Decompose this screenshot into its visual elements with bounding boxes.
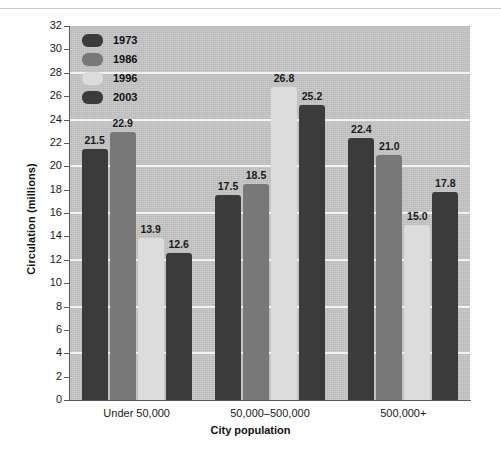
bar-value-label: 12.6: [156, 239, 202, 250]
y-axis-tick-label: 2: [16, 371, 62, 382]
legend-item-label: 1986: [113, 54, 137, 65]
y-axis-tick-label: 16: [16, 207, 62, 218]
y-axis-tick-label: 24: [16, 114, 62, 125]
y-axis-tick: [64, 353, 69, 354]
y-axis-tick: [64, 213, 69, 214]
y-axis-tick: [64, 236, 69, 237]
y-axis-tick-label: 20: [16, 160, 62, 171]
bar-value-label: 18.5: [233, 170, 279, 181]
bar: [299, 105, 325, 400]
y-axis-tick-label: 4: [16, 347, 62, 358]
y-axis-tick: [64, 400, 69, 401]
bar: [348, 138, 374, 400]
bar-value-label: 22.9: [100, 118, 146, 129]
legend-item-label: 1973: [113, 35, 137, 46]
y-axis-tick-label: 32: [16, 20, 62, 31]
y-axis-tick-label: 12: [16, 254, 62, 265]
top-divider-rule: [0, 8, 501, 9]
bar-value-label: 21.0: [366, 141, 412, 152]
y-axis-tick: [64, 166, 69, 167]
bar: [166, 253, 192, 400]
bar: [243, 184, 269, 400]
x-axis-category-label: Under 50,000: [70, 407, 203, 419]
bar: [432, 192, 458, 400]
y-axis-tick: [64, 330, 69, 331]
y-axis-tick: [64, 260, 69, 261]
legend-item: 2003: [82, 88, 137, 106]
bar-value-label: 13.9: [128, 224, 174, 235]
bar: [404, 225, 430, 400]
x-axis-line: [69, 400, 471, 401]
y-axis-tick: [64, 120, 69, 121]
y-axis-tick: [64, 143, 69, 144]
x-axis-title: City population: [0, 424, 501, 436]
y-axis-tick-label: 28: [16, 67, 62, 78]
y-axis-tick-label: 26: [16, 90, 62, 101]
y-axis-tick-label: 0: [16, 394, 62, 405]
x-axis-category-label: 50,000–500,000: [203, 407, 336, 419]
bar-value-label: 22.4: [338, 124, 384, 135]
y-axis-tick-label: 22: [16, 137, 62, 148]
y-axis-tick: [64, 49, 69, 50]
x-axis-category-label: 500,000+: [337, 407, 470, 419]
legend-item-label: 1996: [113, 73, 137, 84]
bar: [376, 155, 402, 400]
legend-item: 1986: [82, 50, 137, 68]
legend-item-label: 2003: [113, 92, 137, 103]
bar-value-label: 17.5: [205, 181, 251, 192]
bar: [138, 238, 164, 400]
y-axis-tick: [64, 307, 69, 308]
bar: [110, 132, 136, 400]
y-axis-tick: [64, 26, 69, 27]
legend-item: 1996: [82, 69, 137, 87]
y-axis-tick: [64, 190, 69, 191]
y-axis-tick: [64, 283, 69, 284]
y-axis-title: Circulation (millions): [25, 109, 37, 329]
bar: [215, 195, 241, 400]
y-axis-tick-label: 8: [16, 301, 62, 312]
y-axis-tick-label: 14: [16, 230, 62, 241]
bar-value-label: 26.8: [261, 73, 307, 84]
bar: [82, 149, 108, 400]
y-axis-tick: [64, 73, 69, 74]
y-axis-line: [69, 26, 70, 401]
legend: 1973198619962003: [82, 31, 137, 107]
legend-swatch-icon: [82, 53, 103, 66]
legend-swatch-icon: [82, 72, 103, 85]
bar-value-label: 15.0: [394, 211, 440, 222]
bar-value-label: 21.5: [72, 135, 118, 146]
bar-chart-figure: 21.522.913.912.617.518.526.825.222.421.0…: [0, 0, 501, 449]
legend-item: 1973: [82, 31, 137, 49]
y-axis-tick-label: 6: [16, 324, 62, 335]
legend-swatch-icon: [82, 91, 103, 104]
legend-swatch-icon: [82, 34, 103, 47]
y-axis-tick: [64, 377, 69, 378]
y-axis-tick: [64, 96, 69, 97]
y-axis-tick-label: 30: [16, 43, 62, 54]
bar-value-label: 25.2: [289, 91, 335, 102]
y-axis-tick-label: 18: [16, 184, 62, 195]
y-axis-tick-label: 10: [16, 277, 62, 288]
bar: [271, 87, 297, 400]
bar-value-label: 17.8: [422, 178, 468, 189]
